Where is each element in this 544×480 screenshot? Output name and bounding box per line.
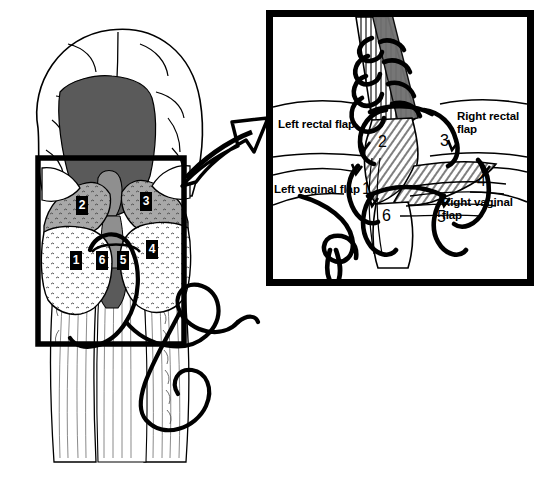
label-right-rectal-flap: Right rectal flap — [457, 110, 519, 136]
label-left-rectal-flap: Left rectal flap — [278, 118, 355, 131]
inset-number-4: 4 — [477, 172, 486, 190]
surgical-figure: 1 2 3 4 5 6 — [0, 0, 544, 480]
inset-number-5: 5 — [437, 208, 446, 226]
label-right-vaginal-flap: Right vaginal flap — [442, 196, 513, 222]
inset-number-3: 3 — [440, 132, 449, 150]
inset-number-1: 1 — [362, 180, 371, 198]
inset-number-6: 6 — [382, 207, 391, 225]
magnified-detail-illustration — [0, 0, 544, 480]
inset-number-2: 2 — [378, 133, 387, 151]
label-left-vaginal-flap: Left vaginal flap — [274, 183, 360, 196]
